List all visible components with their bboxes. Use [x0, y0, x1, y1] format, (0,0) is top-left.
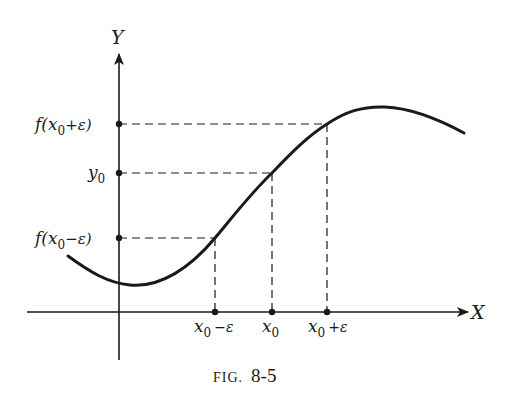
y-tick-dot-f-minus — [116, 235, 122, 241]
y-tick-label-f-minus: f(x0−ε) — [33, 228, 92, 252]
figure-caption: FIG.8-5 — [213, 365, 276, 386]
y-tick-dot-y0 — [116, 170, 122, 176]
x-tick-dot-x0 — [269, 309, 275, 315]
x-tick-dot-x0-plus — [324, 309, 330, 315]
caption-number: 8-5 — [251, 365, 276, 386]
x-tick-label-x0-minus: x0−ε — [194, 316, 233, 340]
function-curve — [68, 107, 464, 285]
y-tick-label-f-plus: f(x0+ε) — [33, 114, 92, 138]
x-axis-label: X — [469, 301, 486, 323]
x-tick-label-x0: x0 — [262, 316, 279, 340]
x-tick-dot-x0-minus — [212, 309, 218, 315]
continuity-diagram: X Y f(x0+ε) y0 f(x0−ε) x0−ε x0 x0+ε FIG.… — [0, 0, 506, 401]
y-tick-dot-f-plus — [116, 121, 122, 127]
y-tick-label-y0: y0 — [87, 162, 105, 186]
caption-prefix: FIG. — [213, 370, 243, 385]
y-axis-label: Y — [111, 26, 126, 48]
x-tick-label-x0-plus: x0+ε — [308, 316, 347, 340]
